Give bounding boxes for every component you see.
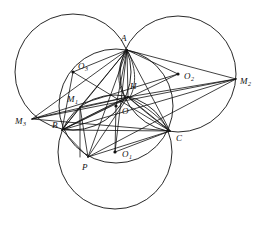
point-label-M1-text: M: [66, 94, 75, 104]
center-O2-dot: [176, 72, 179, 75]
point-label-B-text: B: [52, 120, 58, 130]
point-label-O2: O2: [184, 71, 194, 82]
geometry-figure: ABCPHOO1O2O3M1M2M3: [0, 0, 261, 227]
point-label-A-text: A: [120, 33, 127, 43]
center-O-dot: [114, 104, 117, 107]
point-label-O3: O3: [78, 61, 88, 72]
point-label-H: H: [129, 81, 137, 91]
point-label-C-text: C: [176, 133, 183, 143]
point-label-M3: M3: [14, 116, 26, 127]
figure-canvas: ABCPHOO1O2O3M1M2M3: [0, 0, 261, 227]
point-label-M1-subscript: 1: [75, 99, 78, 105]
point-label-M3-text: M: [14, 116, 23, 126]
point-label-M2: M2: [239, 76, 251, 87]
center-O3-dot: [71, 70, 74, 73]
point-label-P: P: [81, 162, 88, 172]
point-label-O3-subscript: 3: [84, 66, 88, 72]
point-label-C: C: [176, 133, 183, 143]
center-O1-dot: [113, 150, 116, 153]
A-to-P: [88, 50, 127, 157]
point-label-O1-subscript: 1: [129, 154, 132, 160]
point-label-O1: O1: [122, 149, 132, 160]
labels-layer: ABCPHOO1O2O3M1M2M3: [14, 33, 251, 172]
point-label-O: O: [122, 106, 129, 116]
side-BC: [62, 130, 170, 131]
point-label-M3-subscript: 3: [22, 121, 26, 127]
point-label-H-text: H: [129, 81, 137, 91]
point-label-M2-subscript: 2: [248, 81, 251, 87]
point-label-B: B: [52, 120, 58, 130]
point-label-M2-text: M: [239, 76, 248, 86]
point-label-O2-subscript: 2: [191, 76, 194, 82]
point-label-O3-text: O: [78, 61, 85, 71]
point-label-A: A: [120, 33, 127, 43]
point-label-O-text: O: [122, 106, 129, 116]
point-label-O1-text: O: [122, 149, 129, 159]
M2-to-P: [88, 79, 236, 157]
point-label-P-text: P: [81, 162, 88, 172]
segments-layer: [32, 50, 236, 157]
A-to-M2: [127, 50, 236, 79]
point-label-O2-text: O: [184, 71, 191, 81]
A-to-O2: [127, 50, 178, 74]
point-label-M1: M1: [66, 94, 78, 105]
